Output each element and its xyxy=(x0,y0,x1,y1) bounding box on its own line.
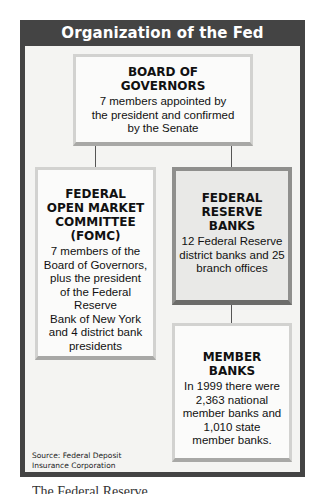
reserve-banks-heading: FEDERAL RESERVE BANKS xyxy=(176,191,288,233)
fomc-description: 7 members of the Board of Governors, plu… xyxy=(38,245,153,353)
board-of-governors-box: BOARD OF GOVERNORS 7 members appointed b… xyxy=(73,54,253,146)
connector-board-reserve-banks xyxy=(231,146,232,167)
diagram-title: Organization of the Fed xyxy=(20,20,305,46)
diagram-body: BOARD OF GOVERNORS 7 members appointed b… xyxy=(25,46,300,472)
connector-reserve-member xyxy=(231,305,232,323)
board-description: 7 members appointed by the president and… xyxy=(76,95,250,136)
fomc-box: FEDERAL OPEN MARKET COMMITTEE (FOMC) 7 m… xyxy=(35,167,156,360)
connector-board-fomc xyxy=(95,146,96,167)
diagram-frame: Organization of the Fed BOARD OF GOVERNO… xyxy=(20,20,305,477)
member-banks-box: MEMBER BANKS In 1999 there were 2,363 na… xyxy=(172,323,292,462)
member-banks-description: In 1999 there were 2,363 national member… xyxy=(175,380,289,448)
reserve-banks-description: 12 Federal Reserve district banks and 25… xyxy=(176,235,288,276)
source-note: Source: Federal Deposit Insurance Corpor… xyxy=(32,451,121,471)
member-banks-heading: MEMBER BANKS xyxy=(175,350,289,378)
federal-reserve-banks-box: FEDERAL RESERVE BANKS 12 Federal Reserve… xyxy=(172,167,292,305)
fomc-heading: FEDERAL OPEN MARKET COMMITTEE (FOMC) xyxy=(38,187,153,243)
board-heading: BOARD OF GOVERNORS xyxy=(76,65,250,93)
caption-partial: The Federal Reserve xyxy=(32,483,148,494)
